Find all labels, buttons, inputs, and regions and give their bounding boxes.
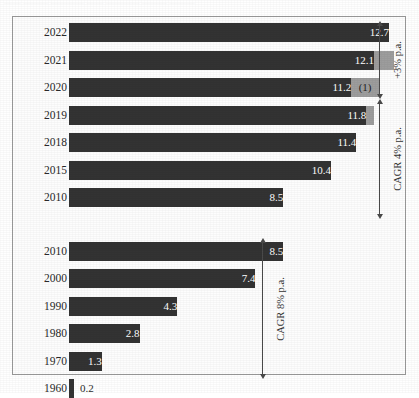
bar-container: 8.5 [69,242,283,261]
chart-frame: 202212.7202112.12020(1)11.2201911.820181… [12,16,406,375]
bar-value-label: 10.4 [69,161,331,180]
category-label: 2019 [13,106,67,125]
cagr-8-label: CAGR 8% p.a. [275,277,286,341]
bar-row: 20108.5 [13,242,405,261]
bar-row: 19904.3 [13,297,405,316]
bar-row: 201911.8 [13,106,405,125]
clipped-header-text: —— ——— ———— —— ———— ——— ——— [4,0,264,7]
bar-value-label: 12.7 [69,23,389,42]
category-label: 2020 [13,78,67,97]
bar-container: 7.4 [69,269,255,288]
bar-container: 0.2 [69,379,74,398]
bar-container: 11.8 [69,106,374,125]
bar-extension-segment [366,106,374,125]
bar-container: 12.7 [69,23,389,42]
bar-value-label: 11.2 [69,78,351,97]
category-label: 2010 [13,242,67,261]
bar-value-label: 12.1 [69,51,374,70]
category-label: 2022 [13,23,67,42]
plus-3-label: +3% p.a. [392,41,403,79]
bar-row: 20108.5 [13,188,405,207]
category-label: 1970 [13,352,67,371]
bar-container: (1)11.2 [69,78,379,97]
bar-value-label: 1.3 [69,352,102,371]
category-label: 1980 [13,324,67,343]
bar-row: 19701.3 [13,352,405,371]
bar-container: 2.8 [69,324,140,343]
cagr-4-arrow [379,103,380,215]
bar-value-label: 2.8 [69,324,140,343]
bar-row: 201510.4 [13,161,405,180]
bar-value-label: 7.4 [69,269,255,288]
bar-value-label: 0.2 [80,379,120,398]
plus-3-arrow [379,25,380,95]
category-label: 2018 [13,133,67,152]
bar-value-label: 8.5 [69,188,283,207]
bar-value-label: 11.4 [69,133,356,152]
bar-container: 12.1 [69,51,394,70]
category-label: 2010 [13,188,67,207]
bar-container: 10.4 [69,161,331,180]
bar-row: 202112.1 [13,51,405,70]
category-label: 2015 [13,161,67,180]
bar-container: 11.4 [69,133,356,152]
cagr-8-arrow [262,242,263,375]
bar-container: 8.5 [69,188,283,207]
bar-row: 201811.4 [13,133,405,152]
category-label: 1990 [13,297,67,316]
bar-container: 4.3 [69,297,177,316]
bar-row: 19802.8 [13,324,405,343]
bar-value-label: 4.3 [69,297,177,316]
bar-row: 19600.2 [13,379,405,398]
bar-row: 2020(1)11.2 [13,78,405,97]
category-label: 2021 [13,51,67,70]
footnote-marker: (1) [351,78,379,97]
bar-row: 202212.7 [13,23,405,42]
category-label: 2000 [13,269,67,288]
bar-container: 1.3 [69,352,102,371]
cagr-4-label: CAGR 4% p.a. [392,127,403,191]
bar-value-label: 8.5 [69,242,283,261]
bar-value-label: 11.8 [69,106,366,125]
bar-row: 20007.4 [13,269,405,288]
category-label: 1960 [13,379,67,398]
bar [69,379,74,398]
